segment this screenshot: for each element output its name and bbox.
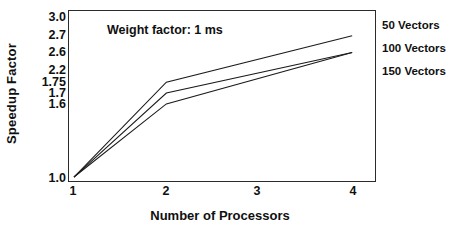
- chart-annotation: Weight factor: 1 ms: [107, 23, 223, 37]
- series-line: [74, 36, 352, 177]
- y-tick-label: 2.6: [22, 46, 66, 59]
- x-axis-title: Number of Processors: [60, 208, 380, 223]
- legend-entry: 100 Vectors: [382, 37, 459, 60]
- series-line: [74, 53, 352, 178]
- y-tick-label: 3.0: [22, 11, 66, 24]
- y-tick-label: 1.6: [22, 98, 66, 111]
- y-tick-label: 2.7: [22, 29, 66, 42]
- legend-entry: 150 Vectors: [382, 60, 459, 83]
- legend-entry: 50 Vectors: [382, 14, 459, 37]
- plot-area: Weight factor: 1 ms: [68, 10, 376, 182]
- x-tick-label: 1: [60, 185, 86, 198]
- chart-figure: Speedup Factor 3.02.72.62.21.751.71.61.0…: [0, 0, 459, 236]
- x-axis-tick-labels: 1234: [0, 185, 459, 203]
- y-axis-tick-labels: 3.02.72.62.21.751.71.61.0: [20, 0, 66, 186]
- series-line: [74, 53, 352, 178]
- x-tick-label: 4: [340, 185, 366, 198]
- y-axis-title-text: Speedup Factor: [5, 42, 20, 143]
- y-tick-label: 1.0: [22, 172, 66, 185]
- x-tick-label: 2: [153, 185, 179, 198]
- chart-legend: 50 Vectors100 Vectors150 Vectors: [382, 14, 459, 83]
- x-tick-label: 3: [244, 185, 270, 198]
